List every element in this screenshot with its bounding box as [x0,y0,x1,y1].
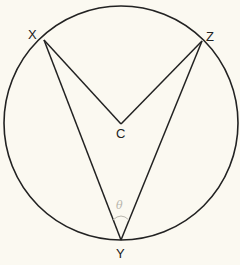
segment-XC [44,40,121,124]
label-C: C [116,126,125,141]
angle-arc-Y [113,216,129,220]
segment-ZC [121,41,202,124]
label-X: X [28,27,37,42]
label-Y: Y [116,246,125,261]
circle-diagram: θ X Z C Y [0,0,240,265]
diagram-canvas: θ X Z C Y [0,0,240,265]
label-Z: Z [206,29,214,44]
segment-ZY [121,41,202,240]
pencil-annotation: θ [116,199,123,212]
segment-XY [44,40,121,240]
